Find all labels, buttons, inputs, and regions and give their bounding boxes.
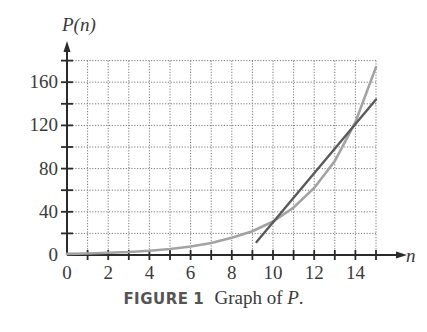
svg-text:8: 8 <box>227 262 237 283</box>
svg-text:6: 6 <box>186 262 196 283</box>
caption-suffix: . <box>299 287 304 308</box>
figure-label: FIGURE <box>123 290 188 308</box>
svg-text:120: 120 <box>30 114 59 135</box>
figure-number: 1 <box>193 290 203 308</box>
y-axis-title: P(n) <box>61 14 96 36</box>
figure-caption: FIGURE 1 Graph of P. <box>0 287 427 309</box>
chart: 0246810121404080120160 P(n) n <box>0 0 427 290</box>
svg-text:80: 80 <box>39 158 58 179</box>
tangent-line <box>257 100 377 243</box>
p-curve <box>67 67 376 254</box>
ticks <box>61 61 376 260</box>
caption-var: P <box>287 287 299 308</box>
svg-text:160: 160 <box>30 71 59 92</box>
svg-text:4: 4 <box>145 262 155 283</box>
svg-text:14: 14 <box>346 262 366 283</box>
svg-text:12: 12 <box>305 262 324 283</box>
svg-text:2: 2 <box>103 262 113 283</box>
svg-text:0: 0 <box>49 244 59 265</box>
svg-text:0: 0 <box>62 262 72 283</box>
svg-text:10: 10 <box>264 262 283 283</box>
caption-text: Graph of <box>214 287 287 308</box>
grid <box>67 61 376 255</box>
x-axis-title: n <box>406 245 416 266</box>
svg-text:40: 40 <box>39 201 58 222</box>
